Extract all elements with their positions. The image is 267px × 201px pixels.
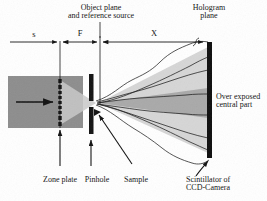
hologram-plane-label: Hologram plane	[180, 4, 238, 21]
object-plane-label: Object plane and reference source	[56, 4, 146, 21]
sample-leader	[99, 115, 132, 164]
pinhole-label: Pinhole	[78, 176, 116, 184]
dimension-label-F: F	[74, 29, 86, 38]
dimension-label-s: s	[28, 30, 40, 39]
sample-label: Sample	[118, 176, 154, 184]
hologram-plane-bar	[207, 42, 212, 158]
scintillator-label: Scintillator of CCD-Camera	[186, 176, 256, 193]
over-exposed-label: Over exposed central part	[216, 93, 266, 110]
dimension-label-X: X	[148, 29, 160, 38]
sample-marker	[94, 109, 101, 116]
figure-canvas: Object plane and reference source Hologr…	[0, 0, 267, 201]
